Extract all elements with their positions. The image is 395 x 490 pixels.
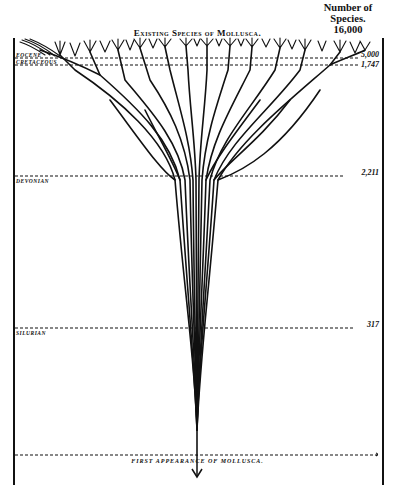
modern-species-crown: [20, 38, 370, 56]
first-appearance-label: FIRST APPEARANCE OF MOLLUSCA.: [0, 458, 395, 464]
era-label-cretaceous: CRETACEOUS: [16, 59, 57, 65]
lineage-branches: [40, 46, 365, 455]
phylogenetic-tree: [0, 0, 395, 490]
era-count-eocene: 5,000: [361, 50, 379, 59]
era-count-cretaceous: 1,747: [361, 60, 379, 69]
era-label-devonian: DEVONIAN: [16, 178, 49, 184]
era-count-silurian: 317: [367, 320, 379, 329]
era-label-silurian: SILURIAN: [16, 330, 46, 336]
era-count-devonian: 2,211: [361, 168, 379, 177]
era-label-eocene: EOCENE: [16, 52, 42, 58]
